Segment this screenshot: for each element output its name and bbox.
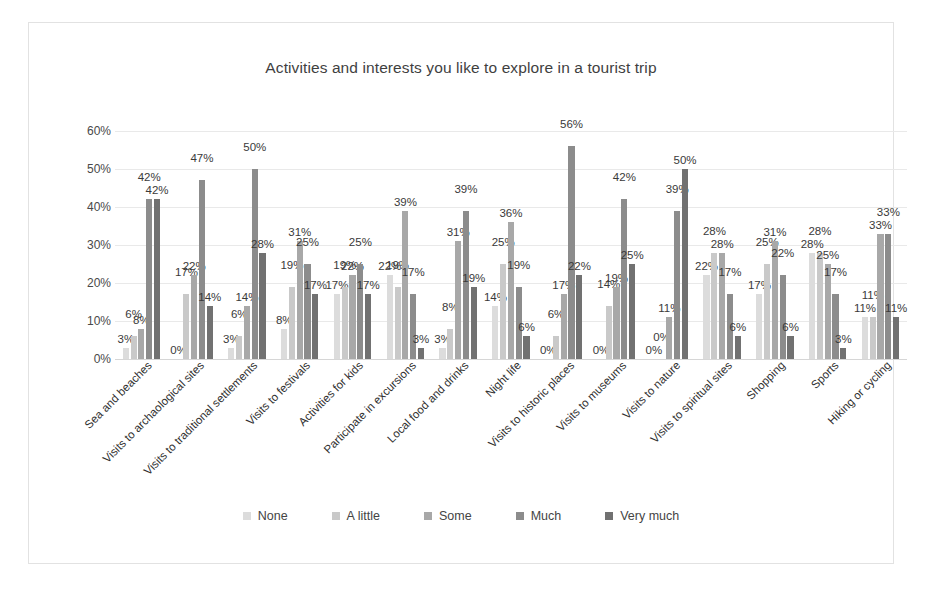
bar-value-label: 6% <box>782 321 799 333</box>
legend-label: Much <box>531 509 562 523</box>
legend-item[interactable]: Much <box>516 509 562 523</box>
bar <box>613 287 619 359</box>
bar <box>259 253 265 359</box>
bar-value-label: 50% <box>673 154 696 166</box>
y-axis-tick-label: 20% <box>87 276 111 290</box>
bar-value-label: 3% <box>835 333 852 345</box>
bar-value-label: 11% <box>885 302 907 314</box>
bar <box>576 275 582 359</box>
bar <box>780 275 786 359</box>
bar-value-label: 39% <box>394 196 417 208</box>
bar <box>191 275 197 359</box>
bar-group: 0%0%11%39%50% <box>643 131 696 359</box>
bar-value-label: 47% <box>190 152 213 164</box>
legend-label: Very much <box>620 509 679 523</box>
bar <box>463 211 469 359</box>
bar <box>523 336 529 359</box>
bar <box>312 294 318 359</box>
bar-value-label: 3% <box>413 333 430 345</box>
legend-swatch-icon <box>605 512 613 520</box>
chart-legend: NoneA littleSomeMuchVery much <box>29 509 893 523</box>
bar <box>840 348 846 359</box>
bar-group: 3%8%31%39%19% <box>432 131 485 359</box>
bar-value-label: 42% <box>145 184 168 196</box>
bar-value-label: 14% <box>198 291 221 303</box>
bar-value-label: 33% <box>877 206 900 218</box>
y-axis-tick-label: 10% <box>87 314 111 328</box>
bar <box>553 336 559 359</box>
bar <box>439 348 445 359</box>
bar <box>787 336 793 359</box>
bar-value-label: 22% <box>771 247 794 259</box>
bar-group: 3%6%8%42%42% <box>115 131 168 359</box>
bar <box>817 253 823 359</box>
bar <box>764 264 770 359</box>
bar-group: 14%25%36%19%6% <box>485 131 538 359</box>
bar <box>207 306 213 359</box>
legend-swatch-icon <box>243 512 251 520</box>
bar <box>666 317 672 359</box>
bar <box>334 294 340 359</box>
bar <box>244 306 250 359</box>
bar <box>387 275 393 359</box>
bar-value-label: 19% <box>462 272 485 284</box>
bar <box>711 253 717 359</box>
bar <box>199 180 205 359</box>
bar <box>568 146 574 359</box>
bar-value-label: 39% <box>454 183 477 195</box>
bar <box>455 241 461 359</box>
y-axis-tick-label: 60% <box>87 124 111 138</box>
bar <box>418 348 424 359</box>
bar-value-label: 6% <box>518 321 535 333</box>
bar-value-label: 19% <box>507 259 530 271</box>
legend-item[interactable]: Very much <box>605 509 679 523</box>
bar <box>349 275 355 359</box>
bar <box>735 336 741 359</box>
legend-item[interactable]: None <box>243 509 288 523</box>
bar-group: 0%17%22%47%14% <box>168 131 221 359</box>
bar <box>395 287 401 359</box>
bar-value-label: 0% <box>645 344 662 356</box>
bar <box>809 253 815 359</box>
bar <box>756 294 762 359</box>
bar-value-label: 17% <box>824 266 847 278</box>
bar <box>342 287 348 359</box>
legend-label: Some <box>439 509 472 523</box>
bar <box>183 294 189 359</box>
x-axis-label-text: Sports <box>808 359 840 391</box>
bar <box>410 294 416 359</box>
bar-value-label: 22% <box>568 260 591 272</box>
bar-value-label: 17% <box>402 266 425 278</box>
y-axis-tick-label: 30% <box>87 238 111 252</box>
bar-value-label: 28% <box>801 238 824 250</box>
bar-value-label: 25% <box>296 236 319 248</box>
bar <box>365 294 371 359</box>
bar <box>131 336 137 359</box>
chart-frame: Activities and interests you like to exp… <box>28 22 894 564</box>
x-axis-label-text: Visits to archaological sites <box>101 359 207 465</box>
x-axis-label-text: Visits to traditional settlements <box>141 359 259 477</box>
bar-value-label: 28% <box>711 238 734 250</box>
legend-item[interactable]: A little <box>332 509 380 523</box>
bar <box>621 199 627 359</box>
bar <box>297 241 303 359</box>
plot-area: 3%6%8%42%42%0%17%22%47%14%3%6%14%50%28%8… <box>115 131 907 359</box>
bar-value-label: 25% <box>349 236 372 248</box>
bar-value-label: 25% <box>816 249 839 261</box>
chart-title: Activities and interests you like to exp… <box>29 59 893 77</box>
bar <box>357 264 363 359</box>
bar <box>304 264 310 359</box>
bar-value-label: 31% <box>763 226 786 238</box>
bar-value-label: 28% <box>703 225 726 237</box>
x-axis-label-text: Shopping <box>745 359 788 402</box>
bar-value-label: 11% <box>854 302 876 314</box>
bar <box>228 348 234 359</box>
legend-item[interactable]: Some <box>424 509 472 523</box>
x-axis-label-text: Night life <box>483 359 523 399</box>
legend-swatch-icon <box>516 512 524 520</box>
x-axis-category-labels: Sea and beachesVisits to archaological s… <box>115 359 907 489</box>
bar <box>447 329 453 359</box>
bar-group: 8%19%31%25%17% <box>273 131 326 359</box>
bar <box>236 336 242 359</box>
bar-value-label: 56% <box>560 118 583 130</box>
